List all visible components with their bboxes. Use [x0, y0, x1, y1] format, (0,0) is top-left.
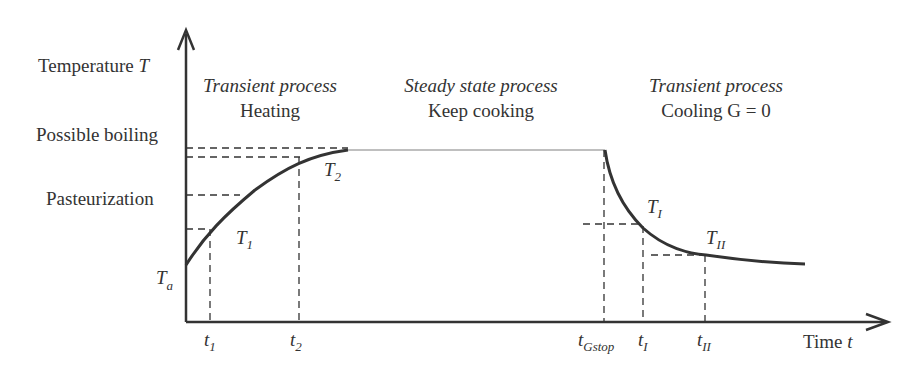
phase-steady-title: Steady state process [404, 75, 557, 96]
point-T2: T2 [324, 159, 342, 184]
tick-t1: t1 [204, 329, 216, 354]
cooling-curve [605, 150, 805, 264]
level-possible-boiling: Possible boiling [36, 124, 158, 145]
phase-cooling-subtitle: Cooling G = 0 [661, 100, 770, 121]
phase-steady-subtitle: Keep cooking [428, 100, 535, 121]
tick-tII: tII [697, 329, 712, 354]
tick-tGstop: tGstop [578, 329, 615, 354]
guide-lines [186, 148, 706, 322]
tick-tI: tI [638, 329, 648, 354]
phase-heating-title: Transient process [203, 75, 337, 96]
x-axis-label: Time t [803, 331, 853, 352]
point-TII: TII [706, 227, 726, 252]
point-T1: T1 [236, 227, 253, 252]
phase-cooling-title: Transient process [649, 75, 783, 96]
point-TI: TI [647, 196, 663, 221]
tick-t2: t2 [290, 329, 302, 354]
level-ambient: Ta [156, 267, 174, 293]
level-pasteurization: Pasteurization [46, 188, 154, 209]
y-axis-label: Temperature T [38, 55, 150, 76]
phase-heating-subtitle: Heating [240, 100, 301, 121]
cooking-temperature-diagram: Temperature T Possible boiling Pasteuriz… [0, 0, 922, 374]
